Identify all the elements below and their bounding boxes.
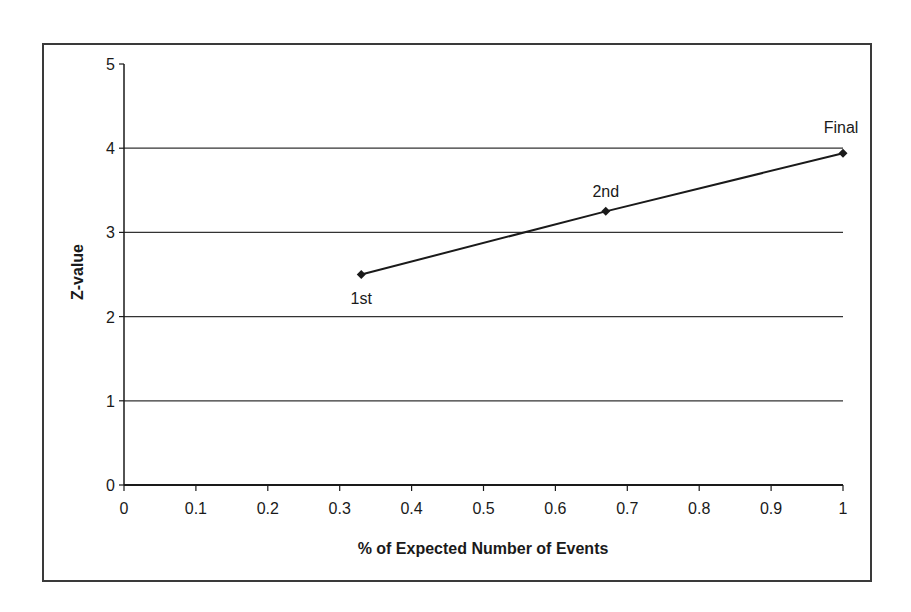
y-tick-label: 3 (106, 224, 115, 241)
data-series: 1st2ndFinal (351, 119, 859, 306)
data-point-label: 1st (351, 290, 373, 307)
x-tick-label: 1 (839, 500, 848, 517)
x-tick-label: 0.9 (760, 500, 782, 517)
y-tick-label: 4 (106, 140, 115, 157)
y-tick-label: 0 (106, 477, 115, 494)
diamond-marker (601, 207, 610, 216)
y-tick-label: 1 (106, 393, 115, 410)
x-tick-label: 0 (120, 500, 129, 517)
y-tick-label: 2 (106, 309, 115, 326)
y-tick-label: 5 (106, 56, 115, 73)
x-tick-label: 0.2 (257, 500, 279, 517)
x-tick-label: 0.7 (616, 500, 638, 517)
axes (124, 64, 843, 485)
x-tick-label: 0.8 (688, 500, 710, 517)
gridlines (124, 148, 843, 401)
data-point-label: 2nd (592, 183, 619, 200)
diamond-marker (357, 270, 366, 279)
x-axis-ticks: 00.10.20.30.40.50.60.70.80.91 (120, 485, 848, 517)
x-tick-label: 0.5 (472, 500, 494, 517)
x-tick-label: 0.4 (400, 500, 422, 517)
x-axis-title: % of Expected Number of Events (358, 540, 609, 557)
x-tick-label: 0.3 (329, 500, 351, 517)
diamond-marker (839, 149, 848, 158)
data-point-label: Final (824, 119, 859, 136)
x-tick-label: 0.6 (544, 500, 566, 517)
y-axis-ticks: 012345 (106, 56, 124, 494)
x-tick-label: 0.1 (185, 500, 207, 517)
line-chart: 012345 00.10.20.30.40.50.60.70.80.91 1st… (0, 0, 911, 612)
y-axis-title: Z-value (69, 244, 86, 300)
series-line (361, 153, 843, 274)
